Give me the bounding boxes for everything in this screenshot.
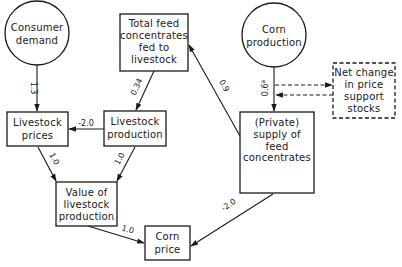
svg-text:stocks: stocks [348, 103, 381, 114]
node-net-change-price-support: Net change in price support stocks [333, 63, 395, 118]
node-total-feed-concentrates: Total feed concentrates fed to livestock [120, 14, 188, 71]
node-corn-production: Corn production [242, 3, 306, 67]
edge-label-0-6a: 0.6a [259, 79, 270, 96]
svg-text:supply of: supply of [253, 129, 301, 140]
svg-text:Corn: Corn [155, 231, 179, 242]
svg-text:production: production [59, 211, 115, 222]
svg-text:prices: prices [22, 130, 53, 141]
svg-text:production: production [107, 129, 163, 140]
svg-text:Consumer: Consumer [11, 22, 64, 33]
flow-diagram: 1.3 0.34 -2.0 1.0 1.0 1.0 0.9 0.6a -2.0 … [0, 0, 402, 267]
node-private-supply-feed: (Private) supply of feed concentrates [240, 112, 314, 193]
svg-text:Livestock: Livestock [13, 117, 62, 128]
edge-label-1-0-right: 1.0 [113, 151, 127, 166]
svg-text:Net change: Net change [334, 67, 394, 78]
svg-text:in price: in price [345, 79, 384, 90]
edge-label-minus-2-0-diag: -2.0 [220, 197, 238, 213]
svg-text:livestock: livestock [131, 54, 177, 65]
node-consumer-demand: Consumer demand [5, 1, 69, 65]
svg-text:Value of: Value of [66, 187, 108, 198]
svg-text:livestock: livestock [64, 199, 110, 210]
node-livestock-production: Livestock production [104, 111, 166, 146]
svg-text:Total feed: Total feed [128, 18, 180, 29]
svg-text:support: support [344, 91, 384, 102]
node-livestock-prices: Livestock prices [7, 112, 68, 146]
svg-text:demand: demand [16, 35, 58, 46]
svg-text:concentrates: concentrates [243, 152, 311, 163]
node-corn-price: Corn price [145, 226, 190, 260]
edge-label-minus-2-0: -2.0 [78, 119, 94, 128]
svg-text:fed to: fed to [139, 42, 169, 53]
edge-label-0-9: 0.9 [217, 78, 231, 94]
edge-label-1-3: 1.3 [29, 82, 38, 95]
svg-text:production: production [246, 37, 302, 48]
edge-label-0-34: 0.34 [129, 77, 145, 97]
svg-text:Livestock: Livestock [111, 116, 160, 127]
svg-text:price: price [155, 244, 181, 255]
edge-value-to-corn-price [88, 226, 144, 243]
node-value-livestock-production: Value of livestock production [56, 182, 117, 226]
svg-text:concentrates: concentrates [120, 30, 188, 41]
edge-label-1-0-left: 1.0 [47, 151, 61, 166]
edge-label-1-0-bottom: 1.0 [120, 224, 135, 236]
edge-private-supply-to-total-feed [189, 45, 240, 136]
svg-text:Corn: Corn [262, 24, 286, 35]
svg-text:feed: feed [266, 141, 289, 152]
svg-text:(Private): (Private) [255, 117, 299, 128]
